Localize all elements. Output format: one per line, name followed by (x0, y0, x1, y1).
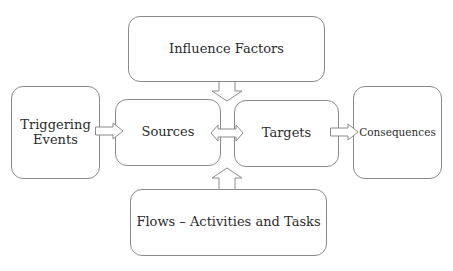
right-arrow-icon (96, 123, 124, 139)
bidirectional-arrow-icon (211, 125, 243, 141)
up-arrow-icon (212, 168, 242, 190)
right-arrow-icon (331, 124, 359, 140)
arrows-layer (0, 0, 453, 271)
down-arrow-icon (212, 82, 242, 102)
